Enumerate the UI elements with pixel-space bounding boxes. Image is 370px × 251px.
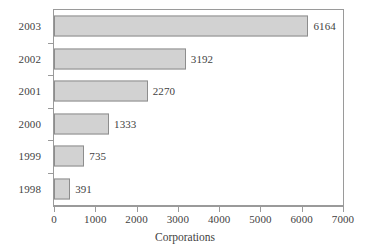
x-axis-tick — [95, 207, 96, 212]
bar-value-label-1998: 391 — [75, 183, 92, 194]
y-axis-tick — [48, 43, 53, 44]
x-axis-title: Corporations — [0, 231, 370, 243]
x-axis-tick — [343, 207, 344, 212]
x-axis-tick-label: 7000 — [332, 214, 354, 225]
bar-row: 6164 — [54, 10, 343, 43]
y-axis-label-1998: 1998 — [19, 183, 41, 194]
bar-2002 — [54, 48, 186, 69]
y-axis-label-2003: 2003 — [19, 21, 41, 32]
bar-value-label-1999: 735 — [89, 151, 106, 162]
bar-value-label-2001: 2270 — [153, 86, 175, 97]
bar-1998 — [54, 178, 70, 199]
bar-chart: 200320022001200019991998 616431922270133… — [0, 0, 370, 251]
y-axis-label-1999: 1999 — [19, 151, 41, 162]
bar-row: 735 — [54, 140, 343, 173]
x-axis-tick — [302, 207, 303, 212]
x-axis-tick-label: 0 — [51, 214, 57, 225]
bar-2003 — [54, 16, 308, 37]
bar-value-label-2002: 3192 — [191, 53, 213, 64]
y-axis-tick — [48, 173, 53, 174]
bar-row: 3192 — [54, 43, 343, 76]
y-axis-label-2001: 2001 — [19, 86, 41, 97]
x-axis-tick — [178, 207, 179, 212]
bars-layer: 6164319222701333735391 — [54, 10, 343, 205]
x-axis-tick-label: 1000 — [84, 214, 106, 225]
bar-value-label-2003: 6164 — [313, 21, 335, 32]
bar-2000 — [54, 113, 109, 134]
x-axis-tick — [137, 207, 138, 212]
x-axis-tick-label: 5000 — [249, 214, 271, 225]
y-axis-tick — [48, 140, 53, 141]
x-axis-line — [53, 206, 344, 207]
x-axis-tick-label: 3000 — [167, 214, 189, 225]
x-axis-tick — [54, 207, 55, 212]
y-axis-tick — [48, 108, 53, 109]
y-axis-label-2002: 2002 — [19, 53, 41, 64]
bar-row: 391 — [54, 173, 343, 206]
bar-row: 1333 — [54, 108, 343, 141]
bar-row: 2270 — [54, 75, 343, 108]
bar-2001 — [54, 81, 148, 102]
y-axis-label-2000: 2000 — [19, 118, 41, 129]
x-axis-tick — [260, 207, 261, 212]
bar-1999 — [54, 146, 84, 167]
x-axis-tick-label: 6000 — [291, 214, 313, 225]
x-axis-tick — [219, 207, 220, 212]
x-axis-tick-label: 2000 — [125, 214, 147, 225]
bar-value-label-2000: 1333 — [114, 118, 136, 129]
y-axis-category-labels: 200320022001200019991998 — [0, 10, 48, 205]
x-axis-tick-label: 4000 — [208, 214, 230, 225]
y-axis-tick — [48, 75, 53, 76]
